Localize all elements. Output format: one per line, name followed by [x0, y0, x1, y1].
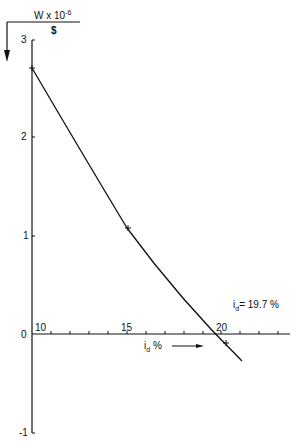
- ytick-neg1: -1: [19, 428, 28, 438]
- xlabel: id %: [144, 341, 162, 355]
- ylabel-top: W x 10-6: [34, 8, 71, 21]
- data-markers: [29, 65, 229, 346]
- ylabel-bottom: $: [51, 26, 57, 36]
- xtick-20: 20: [216, 323, 227, 333]
- xtick-10: 10: [35, 323, 46, 333]
- arrow-right-icon: [196, 344, 204, 348]
- xtick-15: 15: [121, 323, 132, 333]
- ytick-1: 1: [23, 231, 29, 241]
- chart: [0, 0, 300, 448]
- data-line: [32, 68, 242, 361]
- ytick-2: 2: [21, 132, 27, 142]
- annotation-zero-crossing: id= 19.7 %: [233, 300, 279, 314]
- ytick-3: 3: [21, 35, 27, 45]
- arrow-down-icon: [4, 50, 10, 62]
- ytick-0: 0: [21, 330, 27, 340]
